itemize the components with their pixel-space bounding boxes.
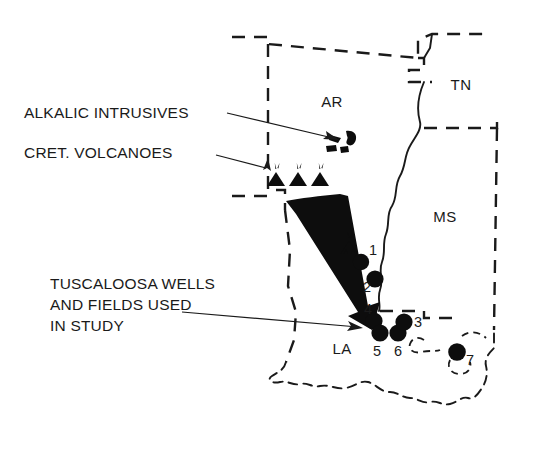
label-tuscaloosa-wells-line-2: AND FIELDS USED bbox=[50, 296, 192, 313]
intrusive-body-main bbox=[346, 131, 356, 146]
alkalic-intrusives-leader bbox=[227, 113, 337, 139]
well-site-dot-3[interactable] bbox=[395, 313, 412, 330]
mississippi-east-boundary bbox=[494, 128, 497, 330]
well-site-label-2: 2 bbox=[363, 279, 371, 295]
state-label-louisiana: LA bbox=[332, 340, 351, 357]
lake-maurepas-outline bbox=[462, 332, 486, 338]
study-area-map: 1 2 3 4 5 6 7 AR TN MS LA bbox=[0, 0, 538, 459]
well-site-label-1: 1 bbox=[369, 242, 377, 258]
mississippi-river-line bbox=[379, 34, 432, 311]
arkansas-boundary bbox=[232, 34, 489, 58]
well-site-label-4: 4 bbox=[364, 301, 372, 317]
tennessee-mississippi-line bbox=[424, 122, 497, 128]
map-figure: 1 2 3 4 5 6 7 AR TN MS LA bbox=[0, 0, 538, 459]
label-cret-volcanoes: CRET. VOLCANOES bbox=[24, 144, 173, 161]
well-site-label-6: 6 bbox=[394, 343, 402, 359]
state-label-tennessee: TN bbox=[451, 76, 472, 93]
alkalic-intrusives-arrowhead bbox=[323, 131, 339, 140]
annotation-labels: ALKALIC INTRUSIVES CRET. VOLCANOES TUSCA… bbox=[24, 104, 215, 334]
well-site-dot-7[interactable] bbox=[448, 343, 466, 361]
tuscaloosa-wells-leader bbox=[182, 312, 358, 327]
intrusive-body-small-2 bbox=[340, 146, 349, 153]
well-site-label-5: 5 bbox=[373, 343, 381, 359]
label-tuscaloosa-wells-line-3: IN STUDY bbox=[50, 317, 124, 334]
volcano-icon-west-3 bbox=[311, 163, 329, 186]
state-label-mississippi: MS bbox=[433, 208, 456, 225]
well-site-label-7: 7 bbox=[466, 352, 474, 368]
label-alkalic-intrusives: ALKALIC INTRUSIVES bbox=[24, 104, 189, 121]
louisiana-west-boundary bbox=[285, 210, 296, 362]
arkansas-tennessee-jog bbox=[409, 58, 432, 82]
intrusive-body-small-1 bbox=[326, 145, 337, 152]
well-site-label-3: 3 bbox=[414, 314, 422, 330]
cret-volcanoes-leader bbox=[216, 155, 266, 168]
lake-pontchartrain-outline bbox=[410, 338, 440, 353]
volcano-icon-west-2 bbox=[289, 163, 307, 186]
mississippi-river-boundary bbox=[379, 34, 432, 311]
state-label-arkansas: AR bbox=[321, 93, 343, 110]
label-tuscaloosa-wells-line-1: TUSCALOOSA WELLS bbox=[50, 275, 215, 292]
well-site-dot-5[interactable] bbox=[371, 324, 388, 341]
well-site-dot-1[interactable] bbox=[353, 254, 369, 270]
